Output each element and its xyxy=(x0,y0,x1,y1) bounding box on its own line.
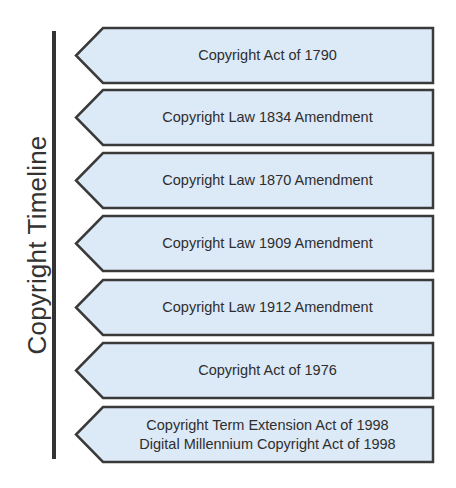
timeline-entry-1909: Copyright Law 1909 Amendment xyxy=(75,215,434,272)
entry-label: Copyright Act of 1976 xyxy=(103,342,432,399)
timeline-entry-1790: Copyright Act of 1790 xyxy=(75,27,434,84)
timeline-entry-1870: Copyright Law 1870 Amendment xyxy=(75,152,434,209)
entry-label: Copyright Law 1834 Amendment xyxy=(103,89,432,146)
entry-label: Copyright Act of 1790 xyxy=(103,27,432,84)
timeline-entry-1834: Copyright Law 1834 Amendment xyxy=(75,89,434,146)
entry-label: Copyright Law 1870 Amendment xyxy=(103,152,432,209)
timeline-axis-line xyxy=(52,31,56,459)
timeline-entry-1998: Copyright Term Extension Act of 1998 Dig… xyxy=(75,406,434,463)
timeline-title: Copyright Timeline xyxy=(22,136,53,355)
timeline-entry-1976: Copyright Act of 1976 xyxy=(75,342,434,399)
entry-label: Copyright Law 1912 Amendment xyxy=(103,279,432,336)
timeline-entry-1912: Copyright Law 1912 Amendment xyxy=(75,279,434,336)
entry-label: Copyright Term Extension Act of 1998 Dig… xyxy=(103,406,432,463)
entry-label: Copyright Law 1909 Amendment xyxy=(103,215,432,272)
